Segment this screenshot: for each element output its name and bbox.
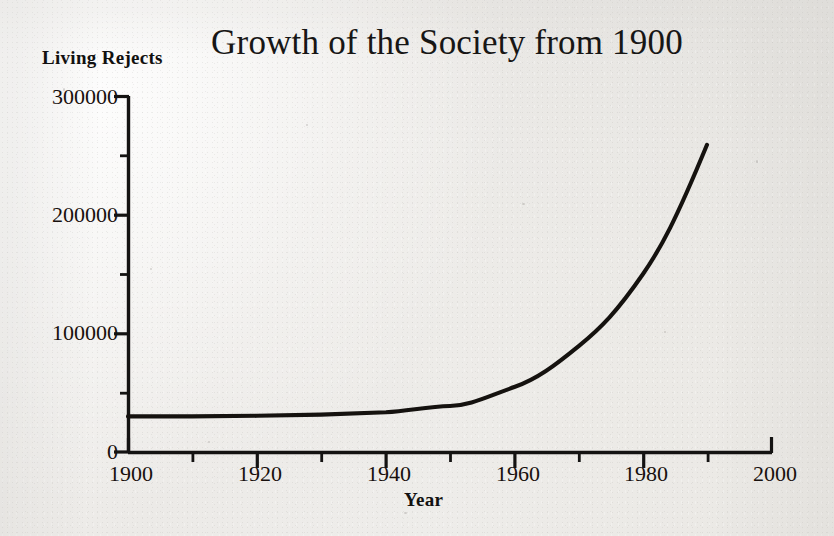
scanned-chart-page: Growth of the Society from 1900 Living R… [0, 0, 834, 536]
plot-area [0, 0, 834, 536]
data-series-living-rejects [128, 145, 707, 417]
